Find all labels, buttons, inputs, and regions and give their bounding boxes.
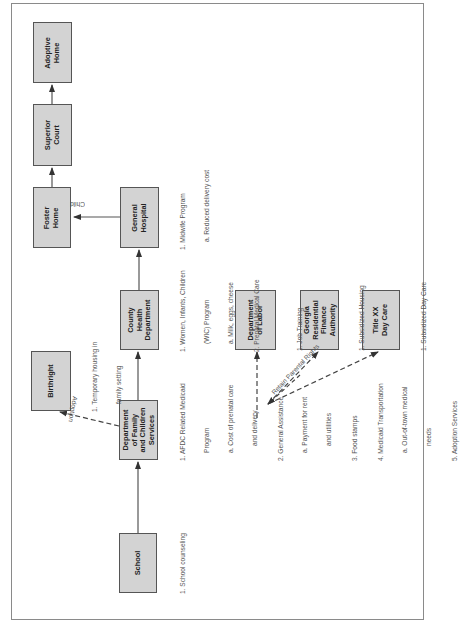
note-line: family setting bbox=[115, 342, 123, 412]
node-general-hospital: General Hospital bbox=[120, 187, 159, 248]
note-line: 1. AFDC Related Medicaid bbox=[179, 383, 187, 461]
note-line: 2. General Assistance bbox=[277, 383, 285, 461]
node-label: School bbox=[134, 551, 143, 576]
node-label: Title XX Day Care bbox=[372, 304, 389, 336]
note-line: and utilities bbox=[325, 383, 333, 461]
note-line: 1. Subsidized Housing bbox=[358, 285, 366, 351]
notes-birthright: 1. Temporary housing in family setting bbox=[75, 342, 131, 412]
edge-label-child: Child bbox=[70, 201, 85, 208]
note-line: (WIC) Program bbox=[203, 270, 211, 352]
notes-georgia-residential: 1. Subsidized Housing bbox=[342, 285, 374, 351]
notes-dfcs: 1. AFDC Related Medicaid Program a. Cost… bbox=[163, 383, 464, 461]
notes-dept-labor: 1. Job Training bbox=[280, 308, 312, 351]
note-line: 1. Subsidized Day Care bbox=[420, 282, 428, 351]
note-line: a. Out-of-town medical bbox=[401, 383, 409, 461]
node-adoptive-home: Adoptive Home bbox=[33, 22, 72, 83]
note-line: a. Cost of prenatal care bbox=[227, 383, 235, 461]
node-label: Department of Family and Children Servic… bbox=[121, 407, 155, 452]
node-label: Foster Home bbox=[43, 206, 60, 229]
node-birthright: Birthright bbox=[31, 351, 71, 411]
node-label: Birthright bbox=[47, 364, 56, 398]
note-line: 1. Women, Infants, Children bbox=[179, 270, 187, 352]
node-superior-court: Superior Court bbox=[33, 104, 72, 166]
node-foster-home: Foster Home bbox=[33, 187, 71, 248]
notes-title-xx: 1. Subsidized Day Care bbox=[404, 282, 436, 351]
note-line: needs bbox=[425, 383, 433, 461]
node-label: County Health Department bbox=[127, 299, 153, 340]
node-label: Superior Court bbox=[44, 120, 61, 150]
note-line: and delivery bbox=[251, 383, 259, 461]
note-line: a. Milk, eggs, cheese bbox=[227, 270, 235, 352]
note-line: 4. Medicaid Transportation bbox=[377, 383, 385, 461]
note-line: a. Payment for rent bbox=[301, 383, 309, 461]
note-line: 1. School counseling bbox=[179, 533, 187, 594]
notes-county-health: 1. Women, Infants, Children (WIC) Progra… bbox=[163, 270, 269, 352]
note-line: 1. Midwife Program bbox=[179, 170, 187, 250]
notes-general-hospital: 1. Midwife Program a. Reduced delivery c… bbox=[163, 170, 219, 250]
note-line: 2. Prenatal Medical Care bbox=[253, 270, 261, 352]
note-line: a. Reduced delivery cost bbox=[203, 170, 211, 250]
notes-school: 1. School counseling bbox=[163, 533, 195, 594]
note-line: Program bbox=[203, 383, 211, 461]
note-line: 1. Job Training bbox=[296, 308, 304, 351]
note-line: 3. Food stamps bbox=[351, 383, 359, 461]
note-line: 1. Temporary housing in bbox=[91, 342, 99, 412]
node-label: Adoptive Home bbox=[44, 37, 61, 69]
node-label: General Hospital bbox=[131, 203, 148, 232]
note-line: 5. Adoption Services bbox=[451, 383, 459, 461]
node-school: School bbox=[119, 533, 157, 593]
